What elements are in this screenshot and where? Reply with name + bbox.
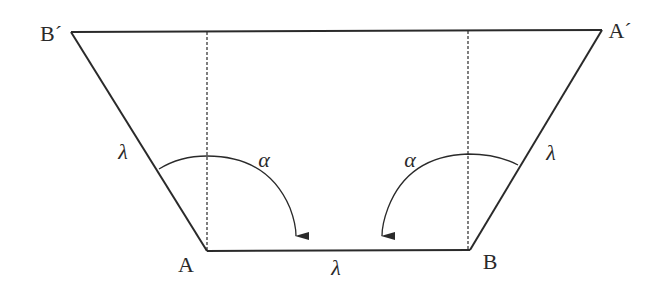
right-edge [470, 30, 602, 250]
left-edge [71, 32, 207, 251]
top-edge [71, 30, 602, 32]
lambda-bottom-label: λ [331, 257, 341, 279]
point-label-b-prime: B´ [40, 23, 62, 45]
point-label-a: A [178, 254, 194, 276]
alpha-right-label: α [404, 149, 416, 171]
alpha-right-arc [382, 154, 518, 236]
trapezoid-diagram [0, 0, 665, 285]
alpha-left-arc [159, 156, 296, 236]
bottom-edge [207, 250, 470, 251]
alpha-left-label: α [258, 149, 270, 171]
lambda-left-label: λ [118, 141, 128, 163]
lambda-right-label: λ [546, 142, 556, 164]
point-label-a-prime: A´ [608, 20, 631, 42]
point-label-b: B [483, 251, 498, 273]
